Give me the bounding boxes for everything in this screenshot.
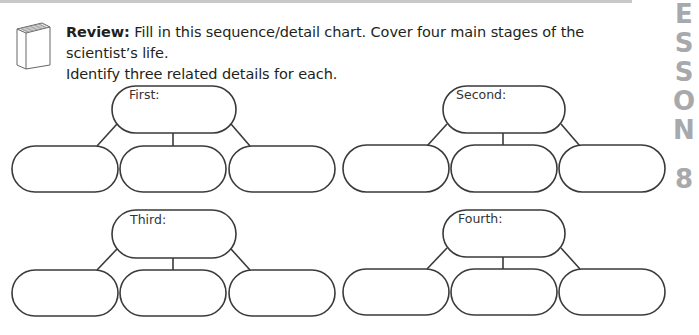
detail-box[interactable] [559,269,665,315]
stage-label-third: Third: [130,212,166,227]
detail-box[interactable] [451,269,557,315]
detail-box[interactable] [12,270,118,316]
detail-box[interactable] [559,145,665,192]
detail-box[interactable] [451,145,557,192]
stage-label-first: First: [129,87,160,102]
stage-group-third [12,210,335,316]
detail-box[interactable] [229,270,335,316]
detail-box[interactable] [343,145,449,192]
stage-label-fourth: Fourth: [458,211,503,226]
stage-group-fourth [343,210,665,315]
detail-box[interactable] [120,270,226,316]
detail-box[interactable] [120,146,226,192]
detail-box[interactable] [229,146,335,192]
detail-box[interactable] [343,269,449,315]
sequence-detail-chart [0,0,699,335]
detail-box[interactable] [12,146,118,192]
stage-group-first [12,86,335,192]
stage-label-second: Second: [456,87,506,102]
